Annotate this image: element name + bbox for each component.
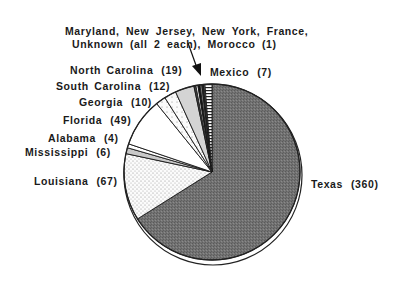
label-georgia: Georgia(10) bbox=[79, 96, 152, 108]
label-name: South Carolina bbox=[56, 80, 141, 92]
label-name: Mexico bbox=[210, 66, 249, 78]
annotation-line-2: Unknown (all 2 each), Morocco (1) bbox=[72, 38, 277, 50]
label-name: Georgia bbox=[79, 96, 123, 108]
label-south-carolina: South Carolina(12) bbox=[56, 80, 170, 92]
label-name: Mississippi bbox=[25, 146, 88, 158]
label-name: Florida bbox=[63, 114, 102, 126]
pie-slices bbox=[124, 84, 300, 260]
label-value: (12) bbox=[149, 80, 170, 92]
label-louisiana: Louisiana(67) bbox=[34, 175, 118, 187]
label-mexico: Mexico(7) bbox=[210, 66, 272, 78]
label-alabama: Alabama(4) bbox=[48, 132, 119, 144]
label-name: North Carolina bbox=[70, 64, 153, 76]
label-value: (4) bbox=[104, 132, 119, 144]
label-value: (49) bbox=[110, 114, 131, 126]
label-name: Alabama bbox=[48, 132, 96, 144]
label-value: (7) bbox=[257, 66, 272, 78]
label-value: (6) bbox=[96, 146, 111, 158]
label-value: (10) bbox=[131, 96, 152, 108]
label-name: Louisiana bbox=[34, 175, 88, 187]
annotation-arrow-head-icon bbox=[192, 63, 201, 76]
label-value: (19) bbox=[161, 64, 182, 76]
label-name: Texas bbox=[311, 178, 343, 190]
label-mississippi: Mississippi(6) bbox=[25, 146, 111, 158]
label-value: (360) bbox=[351, 178, 379, 190]
label-florida: Florida(49) bbox=[63, 114, 131, 126]
label-texas: Texas(360) bbox=[311, 178, 379, 190]
label-value: (67) bbox=[96, 175, 117, 187]
annotation-line-1: Maryland, New Jersey, New York, France, bbox=[65, 25, 308, 37]
label-north-carolina: North Carolina(19) bbox=[70, 64, 182, 76]
